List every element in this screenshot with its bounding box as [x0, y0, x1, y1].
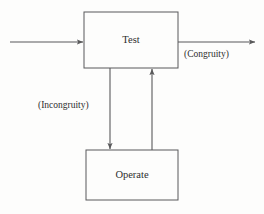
node-test-label: Test [122, 34, 139, 45]
edge-label-congruity: (Congruity) [184, 49, 229, 60]
diagram-canvas: Test Operate (Congruity) (Incongruity) [0, 0, 264, 214]
tote-diagram: Test Operate (Congruity) (Incongruity) [0, 0, 264, 214]
edge-label-incongruity: (Incongruity) [38, 100, 89, 111]
node-operate-label: Operate [115, 169, 149, 180]
